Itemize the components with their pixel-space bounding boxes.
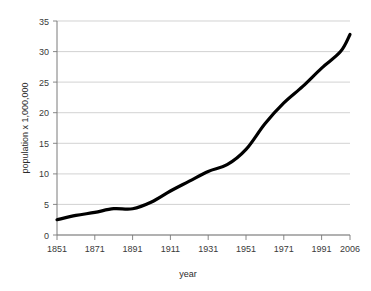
- x-tick-label-1931: 1931: [198, 244, 218, 254]
- y-tick-marks: [53, 21, 57, 235]
- y-axis-title: population x 1,000,000: [20, 82, 30, 173]
- y-tick-label-35: 35: [39, 17, 49, 27]
- population-line-chart: 35 30 25 20 15 10 5 0 1851 1871 1891 191…: [0, 0, 371, 291]
- chart-plot-svg: 35 30 25 20 15 10 5 0 1851 1871 1891 191…: [0, 0, 371, 291]
- y-tick-label-5: 5: [44, 200, 49, 210]
- population-series-line: [57, 34, 350, 219]
- x-axis-title: year: [179, 269, 197, 279]
- x-tick-label-1991: 1991: [312, 244, 332, 254]
- x-tick-label-1971: 1971: [274, 244, 294, 254]
- x-tick-label-1851: 1851: [47, 244, 67, 254]
- y-tick-label-30: 30: [39, 47, 49, 57]
- x-tick-label-1951: 1951: [236, 244, 256, 254]
- y-tick-label-10: 10: [39, 169, 49, 179]
- y-tick-label-20: 20: [39, 108, 49, 118]
- y-tick-label-0: 0: [44, 231, 49, 241]
- x-tick-label-1891: 1891: [123, 244, 143, 254]
- x-tick-marks: [57, 235, 350, 240]
- y-tick-label-25: 25: [39, 78, 49, 88]
- x-tick-label-1871: 1871: [85, 244, 105, 254]
- x-tick-label-2006: 2006: [340, 244, 360, 254]
- x-tick-label-1911: 1911: [161, 244, 180, 254]
- y-tick-label-15: 15: [39, 139, 49, 149]
- gridlines: [57, 21, 350, 235]
